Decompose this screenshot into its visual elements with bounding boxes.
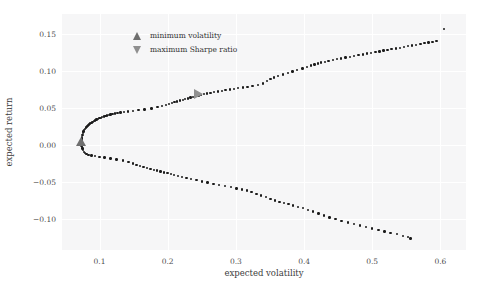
efficient-frontier-chart: 0.150.100.050.00−0.05−0.10 0.10.20.30.40… xyxy=(0,0,481,293)
scatter-point xyxy=(98,156,100,158)
scatter-point xyxy=(246,86,248,88)
scatter-point xyxy=(282,73,284,75)
scatter-point xyxy=(402,235,404,237)
scatter-point xyxy=(153,169,155,171)
legend-item: minimum volatility xyxy=(132,30,237,41)
scatter-point xyxy=(327,60,329,62)
scatter-point xyxy=(212,183,214,185)
gridline-horizontal xyxy=(62,71,466,72)
scatter-point xyxy=(310,64,312,66)
y-tick-label: 0.15 xyxy=(39,30,56,39)
scatter-point xyxy=(374,51,376,53)
scatter-point xyxy=(251,85,253,87)
scatter-point xyxy=(163,171,165,173)
gridlines xyxy=(62,14,466,250)
gridline-vertical xyxy=(100,14,101,250)
x-tick-label: 0.6 xyxy=(434,257,446,266)
scatter-point xyxy=(307,209,309,211)
scatter-point xyxy=(179,99,181,101)
scatter-point xyxy=(274,199,276,201)
legend-item: maximum Sharpe ratio xyxy=(132,44,237,55)
scatter-point xyxy=(217,90,219,92)
scatter-point xyxy=(297,206,299,208)
x-tick-label: 0.1 xyxy=(94,257,106,266)
x-tick-label: 0.5 xyxy=(366,257,378,266)
scatter-point xyxy=(137,109,139,111)
scatter-point xyxy=(269,78,271,80)
scatter-point xyxy=(340,220,342,222)
x-tick-label: 0.3 xyxy=(230,257,242,266)
legend-label: minimum volatility xyxy=(150,30,221,41)
y-tick-label: −0.05 xyxy=(33,177,56,186)
scatter-point xyxy=(328,216,330,218)
scatter-point xyxy=(122,159,124,161)
scatter-point xyxy=(383,230,385,232)
scatter-point xyxy=(332,59,334,61)
x-tick-label: 0.4 xyxy=(298,257,310,266)
scatter-point xyxy=(399,47,401,49)
scatter-point xyxy=(359,224,361,226)
scatter-point xyxy=(255,193,257,195)
scatter-point xyxy=(109,157,111,159)
scatter-point xyxy=(431,41,433,43)
scatter-point xyxy=(386,49,388,51)
x-axis-label: expected volatility xyxy=(62,268,466,278)
scatter-point xyxy=(347,221,349,223)
gridline-vertical xyxy=(304,14,305,250)
scatter-point xyxy=(382,49,384,51)
scatter-point xyxy=(317,62,319,64)
plot-area: 0.150.100.050.00−0.05−0.10 0.10.20.30.40… xyxy=(62,14,466,250)
scatter-point xyxy=(150,107,152,109)
scatter-point xyxy=(260,194,262,196)
scatter-point xyxy=(235,187,237,189)
scatter-point xyxy=(132,110,134,112)
y-tick-label: 0.05 xyxy=(39,104,56,113)
scatter-point xyxy=(273,76,275,78)
scatter-point xyxy=(149,168,151,170)
scatter-point xyxy=(143,108,145,110)
gridline-vertical xyxy=(372,14,373,250)
scatter-point xyxy=(185,177,187,179)
scatter-point xyxy=(262,82,264,84)
scatter-point xyxy=(269,198,271,200)
scatter-point xyxy=(206,181,208,183)
gridline-horizontal xyxy=(62,219,466,220)
scatter-point xyxy=(419,43,421,45)
scatter-point xyxy=(119,111,121,113)
scatter-point xyxy=(135,164,137,166)
gridline-horizontal xyxy=(62,182,466,183)
scatter-point xyxy=(349,56,351,58)
scatter-point xyxy=(142,166,144,168)
scatter-point xyxy=(312,210,314,212)
scatter-point xyxy=(81,134,83,136)
gridline-horizontal xyxy=(62,108,466,109)
scatter-point xyxy=(301,67,303,69)
legend: minimum volatilitymaximum Sharpe ratio xyxy=(132,30,237,55)
legend-label: maximum Sharpe ratio xyxy=(150,44,237,55)
x-tick-label: 0.2 xyxy=(162,257,174,266)
triangle-up-icon xyxy=(132,30,143,41)
y-tick-label: 0.10 xyxy=(39,67,56,76)
scatter-point xyxy=(323,214,325,216)
scatter-point xyxy=(395,47,397,49)
gridline-horizontal xyxy=(62,34,466,35)
y-tick-label: 0.00 xyxy=(39,140,56,149)
scatter-point xyxy=(241,188,243,190)
scatter-point xyxy=(221,90,223,92)
scatter-point xyxy=(159,170,161,172)
scatter-point xyxy=(324,61,326,63)
scatter-point xyxy=(340,57,342,59)
scatter-point xyxy=(313,63,315,65)
triangle-down-icon xyxy=(132,44,143,55)
scatter-point xyxy=(409,237,411,239)
scatter-point xyxy=(344,56,346,58)
scatter-point xyxy=(90,154,92,156)
scatter-point xyxy=(127,110,129,112)
gridline-horizontal xyxy=(62,145,466,146)
scatter-point xyxy=(317,212,319,214)
scatter-point xyxy=(229,88,231,90)
scatter-point xyxy=(291,70,293,72)
scatter-point xyxy=(201,180,203,182)
scatter-point xyxy=(127,161,129,163)
y-axis-label: expected return xyxy=(4,97,14,166)
